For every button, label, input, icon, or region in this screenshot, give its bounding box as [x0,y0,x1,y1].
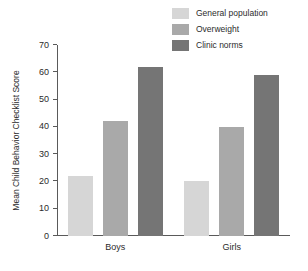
bar-boys-overweight [103,121,128,236]
y-tick-60: 60 [53,71,57,72]
y-axis-title: Mean Child Behavior Checklist Score [9,45,23,236]
bar-boys-clinic-norms [138,67,163,236]
legend-label-overweight: Overweight [196,24,239,35]
plot-area: 010203040506070 BoysGirls [57,45,290,236]
legend-label-general-population: General population [196,8,268,19]
y-tick-40: 40 [53,126,57,127]
y-tick-0: 0 [53,235,57,236]
bar-girls-clinic-norms [254,75,279,236]
y-axis-line [57,45,58,236]
y-tick-10: 10 [53,208,57,209]
y-tick-label-20: 20 [39,176,49,185]
y-tick-30: 30 [53,153,57,154]
y-tick-70: 70 [53,44,57,45]
y-tick-label-60: 60 [39,67,49,76]
legend-item-general-population: General population [172,8,268,19]
bar-girls-general-population [184,181,209,236]
bar-boys-general-population [68,176,93,236]
bar-girls-overweight [219,127,244,236]
y-tick-label-10: 10 [39,204,49,213]
x-axis-label-boys: Boys [105,242,125,252]
y-tick-label-70: 70 [39,40,49,49]
legend-swatch-overweight [172,24,189,35]
y-tick-label-50: 50 [39,95,49,104]
legend-item-overweight: Overweight [172,24,268,35]
y-tick-50: 50 [53,99,57,100]
y-tick-20: 20 [53,180,57,181]
bar-chart-figure: General population Overweight Clinic nor… [0,0,308,271]
y-tick-label-30: 30 [39,149,49,158]
x-axis-label-girls: Girls [223,242,242,252]
y-tick-label-40: 40 [39,122,49,131]
legend-swatch-general-population [172,8,189,19]
y-tick-label-0: 0 [44,231,49,240]
